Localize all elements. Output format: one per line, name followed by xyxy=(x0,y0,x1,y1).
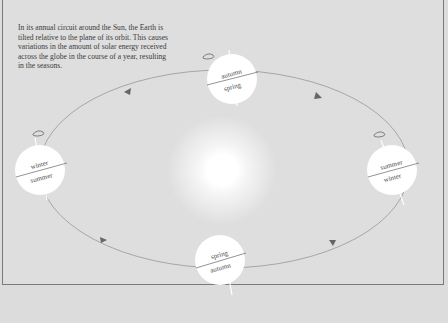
earth-right: summer winter xyxy=(367,132,419,205)
arrow-icon xyxy=(124,88,131,95)
earth-bottom: spring autumn xyxy=(195,235,246,295)
orbit-diagram: autumn spring winter summer summer winte… xyxy=(0,0,448,323)
rotation-icon xyxy=(374,132,385,137)
rotation-icon xyxy=(203,54,214,59)
earth-left: winter summer xyxy=(15,131,67,200)
earth-top: autumn spring xyxy=(203,50,258,106)
rotation-icon xyxy=(33,131,44,136)
arrow-icon xyxy=(314,92,322,99)
arrow-icon xyxy=(329,240,336,246)
arrow-icon xyxy=(100,237,107,243)
sun-icon xyxy=(167,115,277,225)
